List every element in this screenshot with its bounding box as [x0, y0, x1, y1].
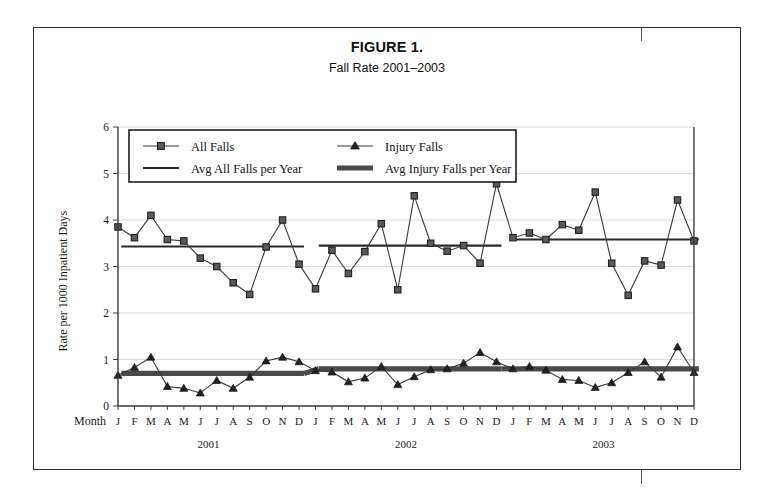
y-tick-label: 5: [103, 168, 109, 180]
year-label: 2003: [592, 438, 615, 450]
all-falls-point: [362, 248, 368, 254]
year-label: 2002: [395, 438, 417, 450]
x-tick-label: M: [146, 415, 156, 427]
x-tick-label: N: [279, 415, 287, 427]
x-tick-label: O: [657, 415, 665, 427]
injury-falls-point: [163, 382, 171, 389]
x-tick-label: J: [396, 415, 401, 427]
all-falls-point: [543, 236, 549, 242]
x-tick-label: M: [541, 415, 551, 427]
injury-falls-point: [525, 362, 533, 369]
x-tick-label: J: [313, 415, 318, 427]
x-tick-label: D: [295, 415, 303, 427]
injury-falls-point: [493, 358, 501, 365]
x-tick-label: M: [179, 415, 189, 427]
injury-falls-point: [361, 374, 369, 381]
legend-label: Avg Injury Falls per Year: [385, 162, 512, 176]
x-tick-label: J: [198, 415, 203, 427]
page-crop-tick-bottom: [641, 470, 642, 484]
x-tick-label: A: [427, 415, 435, 427]
x-tick-label: D: [690, 415, 698, 427]
x-tick-label: S: [642, 415, 648, 427]
all-falls-point: [164, 236, 170, 242]
x-tick-label: M: [574, 415, 584, 427]
all-falls-point: [510, 234, 516, 240]
figure-number: FIGURE 1.: [33, 39, 741, 55]
all-falls-point: [312, 286, 318, 292]
legend-label: All Falls: [191, 140, 235, 154]
y-tick-label: 3: [103, 261, 109, 273]
all-falls-point: [148, 212, 154, 218]
x-tick-label: J: [412, 415, 417, 427]
all-falls-point: [230, 280, 236, 286]
all-falls-point: [592, 189, 598, 195]
y-axis-title: Rate per 1000 Inpatient Days: [56, 211, 70, 352]
x-tick-label: N: [476, 415, 484, 427]
all-falls-point: [576, 227, 582, 233]
injury-falls-point: [213, 376, 221, 383]
all-falls-point: [427, 240, 433, 246]
injury-falls-point: [641, 358, 649, 365]
y-tick-label: 1: [103, 354, 109, 366]
x-tick-label: J: [593, 415, 598, 427]
all-falls-point: [674, 197, 680, 203]
x-tick-label: A: [624, 415, 632, 427]
all-falls-point: [658, 262, 664, 268]
x-tick-label: A: [229, 415, 237, 427]
x-tick-label: J: [215, 415, 220, 427]
injury-falls-point: [410, 373, 418, 380]
injury-falls-point: [229, 384, 237, 391]
x-tick-label: A: [163, 415, 171, 427]
x-tick-label: J: [610, 415, 615, 427]
all-falls-point: [296, 261, 302, 267]
all-falls-point: [345, 270, 351, 276]
all-falls-point: [329, 247, 335, 253]
x-tick-label: S: [247, 415, 253, 427]
x-tick-label: J: [116, 415, 121, 427]
all-falls-point: [181, 238, 187, 244]
year-label: 2001: [198, 438, 220, 450]
injury-falls-point: [130, 363, 138, 370]
all-falls-point: [246, 291, 252, 297]
x-tick-label: M: [376, 415, 386, 427]
injury-falls-point: [147, 353, 155, 360]
injury-falls-point: [558, 375, 566, 382]
x-tick-label: F: [329, 415, 335, 427]
x-tick-label: J: [511, 415, 516, 427]
all-falls-point: [641, 258, 647, 264]
month-axis-label: Month: [74, 414, 106, 428]
injury-falls-point: [674, 343, 682, 350]
injury-falls-point: [476, 349, 484, 356]
x-tick-label: A: [558, 415, 566, 427]
all-falls-point: [197, 255, 203, 261]
data-series-group: [114, 181, 698, 396]
x-tick-label: S: [444, 415, 450, 427]
all-falls-point: [625, 292, 631, 298]
all-falls-point: [378, 221, 384, 227]
all-falls-point: [279, 217, 285, 223]
all-falls-point: [526, 230, 532, 236]
injury-falls-point: [460, 359, 468, 366]
all-falls-point: [411, 193, 417, 199]
x-tick-label: N: [674, 415, 682, 427]
y-tick-label: 6: [103, 121, 109, 133]
x-tick-label: O: [460, 415, 468, 427]
x-tick-label: M: [344, 415, 354, 427]
square-marker-icon: [158, 143, 165, 150]
all-falls-point: [559, 221, 565, 227]
all-falls-point: [131, 234, 137, 240]
legend-label: Avg All Falls per Year: [191, 162, 303, 176]
figure-title-block: FIGURE 1. Fall Rate 2001–2003: [33, 39, 741, 75]
all-falls-point: [609, 260, 615, 266]
all-falls-point: [444, 248, 450, 254]
x-tick-label: D: [493, 415, 501, 427]
x-tick-label: F: [131, 415, 137, 427]
chart-legend: All FallsInjury FallsAvg All Falls per Y…: [129, 130, 516, 182]
x-tick-label: F: [526, 415, 532, 427]
injury-falls-point: [377, 362, 385, 369]
y-tick-label: 4: [103, 214, 109, 226]
figure-subtitle: Fall Rate 2001–2003: [33, 61, 741, 75]
all-falls-point: [460, 242, 466, 248]
all-falls-point: [477, 260, 483, 266]
injury-falls-point: [279, 353, 287, 360]
